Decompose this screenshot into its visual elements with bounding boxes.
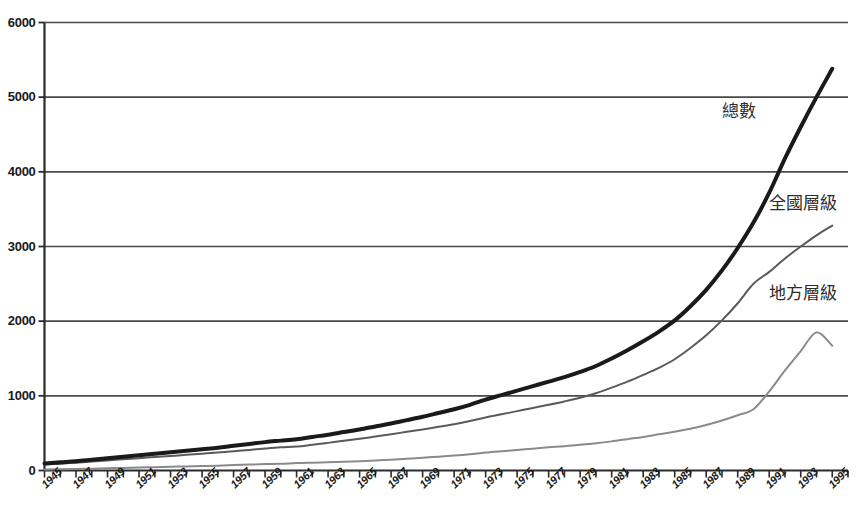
y-tick-label: 1000 [8,388,36,403]
y-tick-label: 6000 [8,15,36,30]
y-tick-label: 4000 [8,164,36,179]
series-annotation-0: 總數 [722,97,756,122]
data-series [45,69,833,470]
y-tick-label: 5000 [8,89,36,104]
chart-container: 0100020003000400050006000 19451947194919… [0,0,857,532]
series-annotation-2: 地方層級 [769,279,837,304]
gridlines [45,23,849,396]
series-line-0 [45,69,833,464]
chart-plot-area [0,0,857,532]
series-line-2 [45,332,833,469]
y-tick-label: 3000 [8,239,36,254]
y-tick-label: 2000 [8,313,36,328]
series-annotation-1: 全國層級 [769,189,837,214]
series-line-1 [45,226,833,465]
y-tick-label: 0 [29,463,36,478]
